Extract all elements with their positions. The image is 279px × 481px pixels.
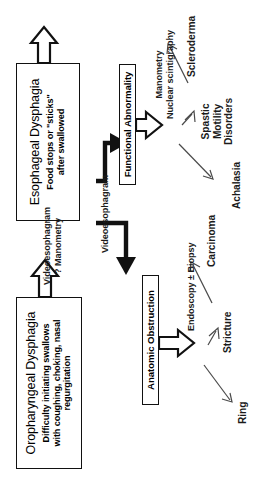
node-esophageal-dysphagia[interactable]: Esophageal Dysphagia Food stops or "stic… [16, 63, 80, 221]
node-label: Functional Abnormality [122, 72, 133, 178]
outcome-line1: Ring [237, 402, 249, 424]
pathway-label-line1: Manometry [154, 30, 165, 119]
outcome-line1: Scleroderma [186, 16, 198, 77]
node-subtitle-line1: Food stops or "sticks" [45, 94, 56, 189]
outcome-line1: Stricture [222, 312, 234, 353]
node-functional-abnormality[interactable]: Functional Abnormality [119, 64, 136, 185]
thin-arrow-to-spastic [182, 111, 195, 125]
pathway-label-videoesophagram: Videoesophagram [100, 175, 111, 253]
thin-arrow-to-stricture [208, 328, 219, 345]
node-anatomic-obstruction[interactable]: Anatomic Obstruction [142, 275, 159, 405]
diagram-rotation-wrapper: Oropharyngeal Dysphagia Difficulty initi… [0, 0, 279, 481]
outcome-line1: Achalasia [231, 162, 243, 209]
thin-arrow-to-ring [204, 365, 232, 402]
pathway-label-line2: ? Manometry [53, 207, 64, 285]
node-oropharyngeal-dysphagia[interactable]: Oropharyngeal Dysphagia Difficulty initi… [16, 297, 82, 469]
block-arrow-anatomic [159, 330, 194, 356]
outcome-scleroderma: Scleroderma [186, 16, 198, 77]
node-title: Oropharyngeal Dysphagia [24, 312, 38, 455]
pathway-label-manometry-scintigraphy: Manometry Nuclear scintigraphy [154, 30, 175, 119]
thin-arrow-to-achalasia [179, 144, 213, 179]
outcome-spastic-motility-disorders: Spastic Motility Disorders [200, 98, 235, 145]
outcome-line2: Motility [212, 98, 224, 145]
node-subtitle-line3: regurgitation [62, 356, 73, 411]
node-subtitle-line2: after swallowed [56, 109, 67, 175]
pathway-label-line2: Nuclear scintigraphy [165, 30, 176, 119]
outcome-line3: Disorders [223, 98, 235, 145]
node-title: Esophageal Dysphagia [28, 79, 42, 206]
pathway-label-line1: Videoesophagram [42, 207, 53, 285]
flowchart-canvas: Oropharyngeal Dysphagia Difficulty initi… [0, 0, 279, 481]
pathway-label-line1: Endoscopy ± Biopsy [186, 243, 197, 331]
pathway-label-endoscopy-biopsy: Endoscopy ± Biopsy [186, 243, 197, 331]
node-subtitle-line1: Difficulty initiating swallows [41, 324, 52, 443]
node-subtitle-line2: with coughing, choking, nasal [52, 320, 63, 447]
outcome-carcinoma: Carcinoma [206, 215, 218, 267]
outcome-stricture: Stricture [222, 312, 234, 353]
outcome-line1: Spastic [200, 98, 212, 145]
pathway-label-line1: Videoesophagram [100, 175, 111, 253]
block-arrow-esophageal [31, 27, 57, 63]
node-label: Anatomic Obstruction [145, 290, 156, 390]
outcome-line1: Carcinoma [206, 215, 218, 267]
outcome-achalasia: Achalasia [231, 162, 243, 209]
outcome-ring: Ring [237, 402, 249, 424]
pathway-label-videoesophagram-manometry: Videoesophagram ? Manometry [42, 207, 63, 285]
